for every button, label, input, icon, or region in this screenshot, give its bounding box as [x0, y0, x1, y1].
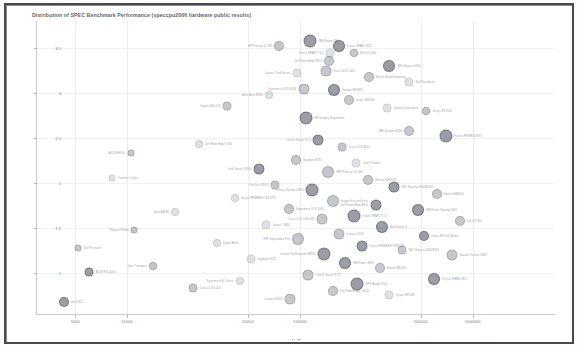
data-point-label: Unisys ES7000 [432, 110, 451, 113]
x-gridline [421, 21, 422, 314]
data-point-label: NEC Express5800/A2040 [401, 185, 433, 188]
y-tick-label: 1.5 [55, 226, 61, 231]
data-point-bubble[interactable] [439, 130, 452, 143]
data-point-bubble[interactable] [375, 263, 385, 273]
data-point-bubble[interactable] [447, 250, 458, 261]
data-point-bubble[interactable] [236, 277, 244, 285]
x-gridline [473, 21, 474, 314]
data-point-label: Acer AR585 [154, 211, 169, 214]
x-tick-label: 10000 [122, 319, 133, 324]
data-point-bubble[interactable] [376, 221, 388, 233]
data-point-bubble[interactable] [313, 135, 324, 146]
data-point-bubble[interactable] [284, 204, 294, 214]
data-point-bubble[interactable] [246, 255, 255, 264]
data-point-label: Inspur NF5288 [396, 294, 415, 297]
data-point-bubble[interactable] [383, 103, 392, 112]
data-point-bubble[interactable] [274, 41, 284, 51]
data-point-bubble[interactable] [265, 91, 273, 99]
data-point-bubble[interactable] [285, 293, 296, 304]
data-point-bubble[interactable] [347, 209, 360, 222]
data-point-bubble[interactable] [432, 189, 442, 199]
data-point-bubble[interactable] [195, 140, 203, 148]
plot-frame: IBM Power 780HP ProLiant DL580Fujitsu SP… [36, 21, 555, 315]
data-point-bubble[interactable] [127, 149, 134, 156]
data-point-bubble[interactable] [318, 247, 331, 260]
data-point-bubble[interactable] [404, 126, 414, 136]
data-point-bubble[interactable] [109, 174, 116, 181]
data-point-bubble[interactable] [405, 78, 414, 87]
data-point-label: HP Integrity Superdome [314, 117, 344, 120]
y-tick-label: 1 [59, 271, 61, 276]
data-point-bubble[interactable] [271, 181, 280, 190]
data-point-bubble[interactable] [292, 233, 304, 245]
data-point-bubble[interactable] [223, 101, 232, 110]
data-point-bubble[interactable] [352, 159, 361, 168]
data-point-bubble[interactable] [306, 184, 319, 197]
data-point-bubble[interactable] [338, 143, 347, 152]
data-point-label: Inspur NF8460 [356, 99, 375, 102]
data-point-label: Supermicro A+ Server [206, 279, 234, 282]
data-point-bubble[interactable] [333, 228, 344, 239]
y-tickmark [34, 93, 37, 94]
data-point-bubble[interactable] [262, 220, 271, 229]
data-point-label: SGI UV 2000 [360, 52, 377, 55]
data-point-bubble[interactable] [84, 267, 93, 276]
data-point-label: Fujitsu SPARC M12 [442, 277, 467, 280]
data-point-bubble[interactable] [422, 107, 430, 115]
data-point-bubble[interactable] [385, 291, 394, 300]
data-point-bubble[interactable] [339, 257, 351, 269]
y-tick-label: 3.5 [55, 46, 61, 51]
data-point-bubble[interactable] [428, 273, 440, 285]
data-point-bubble[interactable] [333, 40, 345, 52]
data-point-bubble[interactable] [316, 214, 327, 225]
data-point-label: Hitachi HA8000 [444, 193, 464, 196]
data-point-bubble[interactable] [350, 49, 358, 57]
data-point-bubble[interactable] [231, 194, 239, 202]
data-point-bubble[interactable] [188, 283, 197, 292]
data-point-bubble[interactable] [344, 95, 354, 105]
data-point-bubble[interactable] [59, 297, 69, 307]
data-point-bubble[interactable] [388, 181, 399, 192]
data-point-bubble[interactable] [328, 84, 340, 96]
data-point-bubble[interactable] [291, 155, 301, 165]
data-point-bubble[interactable] [299, 112, 312, 125]
data-point-bubble[interactable] [303, 270, 314, 281]
data-point-bubble[interactable] [292, 69, 301, 78]
data-point-bubble[interactable] [364, 72, 374, 82]
data-point-bubble[interactable] [322, 166, 334, 178]
data-point-bubble[interactable] [383, 60, 395, 72]
data-point-label: Bull NovaScale [416, 81, 435, 84]
data-point-bubble[interactable] [304, 34, 317, 47]
x-tickmark [127, 315, 128, 318]
data-point-label: Hitachi BladeSymphony [376, 75, 406, 78]
data-point-bubble[interactable] [149, 262, 157, 270]
data-point-bubble[interactable] [298, 83, 309, 94]
data-point-bubble[interactable] [131, 227, 138, 234]
data-point-label: IBM Power System S824 [426, 209, 457, 212]
data-point-bubble[interactable] [75, 245, 82, 252]
data-point-bubble[interactable] [455, 216, 465, 226]
data-point-bubble[interactable] [254, 163, 265, 174]
y-tick-label: 3 [59, 91, 61, 96]
data-point-label: HPE ProLiant DL380 [336, 171, 362, 174]
data-point-bubble[interactable] [351, 278, 364, 291]
x-tickmark [421, 315, 422, 318]
data-point-bubble[interactable] [398, 245, 407, 254]
data-point-bubble[interactable] [419, 231, 429, 241]
plot-area: IBM Power 780HP ProLiant DL580Fujitsu SP… [37, 21, 555, 314]
y-tickmark [34, 48, 37, 49]
data-point-bubble[interactable] [356, 241, 367, 252]
x-tick-label: 100000 [293, 319, 307, 324]
data-point-bubble[interactable] [171, 208, 179, 216]
data-point-bubble[interactable] [328, 286, 338, 296]
data-point-bubble[interactable] [363, 175, 373, 185]
data-point-bubble[interactable] [327, 195, 339, 207]
data-point-bubble[interactable] [213, 239, 221, 247]
data-point-bubble[interactable] [370, 199, 381, 210]
x-gridline [75, 21, 76, 314]
x-tick-label: 50000 [242, 319, 253, 324]
chart-title: Distribution of SPEC Benchmark Performan… [32, 12, 251, 18]
data-point-bubble[interactable] [320, 65, 331, 76]
data-point-label: Cisco UCS C480 M5 [288, 218, 314, 221]
data-point-bubble[interactable] [412, 204, 424, 216]
